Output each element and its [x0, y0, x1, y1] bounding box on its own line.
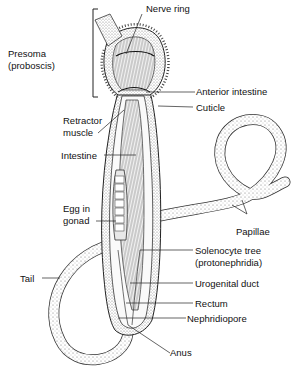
label-muscle: muscle: [63, 127, 93, 138]
priapulid-anatomy-diagram: Nerve ring Presoma (proboscis) Anterior …: [0, 0, 297, 374]
label-nephridiopore: Nephridiopore: [187, 313, 247, 324]
label-intestine: Intestine: [61, 150, 97, 161]
label-tail: Tail: [20, 273, 34, 284]
label-rectum: Rectum: [195, 298, 228, 309]
label-solenocyte-tree: Solenocyte tree: [195, 245, 261, 256]
label-urogenital-duct: Urogenital duct: [195, 278, 259, 289]
presoma-proboscis: [95, 14, 169, 98]
papillae-appendage: [150, 119, 285, 218]
label-cuticle: Cuticle: [196, 102, 225, 113]
label-egg-in: Egg in: [63, 203, 90, 214]
label-anterior-intestine: Anterior intestine: [196, 86, 267, 97]
label-presoma: Presoma: [8, 48, 46, 59]
label-protonephridia: (protonephridia): [195, 257, 262, 268]
label-proboscis: (proboscis): [8, 60, 55, 71]
egg-cells: [115, 176, 124, 231]
label-papillae: Papillae: [236, 226, 270, 237]
label-gonad: gonad: [63, 215, 89, 226]
label-anus: Anus: [170, 347, 192, 358]
label-retractor: Retractor: [63, 115, 102, 126]
trunk-body: [102, 92, 161, 335]
label-nerve-ring: Nerve ring: [146, 3, 190, 14]
